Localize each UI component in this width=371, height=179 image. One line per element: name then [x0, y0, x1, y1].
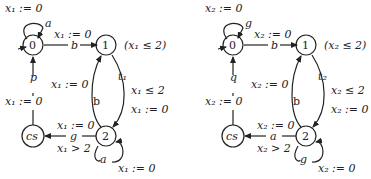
loop2-action: a [100, 153, 107, 166]
e12-guard: x₂ ≤ 2 [331, 84, 365, 97]
automaton-1-labels: 0 1 2 cs (x₁ ≤ 2) x₁ := 0 a x₁ := 0 b t₁… [5, 2, 169, 175]
state-cs-label: cs [226, 130, 238, 143]
state-0-label: 0 [229, 39, 236, 52]
e12-reset: x₁ := 0 [131, 103, 169, 116]
initial-arrow [18, 47, 26, 49]
loop2-reset: x₂ := 0 [318, 162, 356, 175]
e01-action: b [71, 39, 78, 52]
state-1-label: 1 [302, 39, 309, 52]
edge-1-2 [312, 55, 324, 127]
loop0-action: a [45, 17, 52, 30]
e12-action: t₂ [318, 70, 327, 83]
state-1-label: 1 [102, 39, 109, 52]
loop0-reset: x₂ := 0 [205, 2, 243, 15]
ecs0-action: q [230, 71, 237, 84]
e01-action: b [271, 39, 278, 52]
edge-1-2 [112, 55, 124, 127]
e2cs-guard: x₂ > 2 [257, 142, 291, 155]
e21-action: b [93, 95, 100, 108]
e12-reset: x₂ := 0 [331, 103, 369, 116]
e21-reset: x₂ := 0 [251, 78, 289, 91]
state-2-label: 2 [102, 130, 109, 143]
e21-action: b [293, 95, 300, 108]
e12-guard: x₁ ≤ 2 [131, 84, 165, 97]
invariant-1: (x₁ ≤ 2) [124, 39, 166, 52]
ecs0-reset: x₁ := 0 [5, 95, 43, 108]
edge-2-1 [92, 56, 101, 127]
e21-reset: x₁ := 0 [51, 78, 89, 91]
loop0-reset: x₁ := 0 [5, 2, 43, 15]
ecs0-reset: x₂ := 0 [205, 95, 243, 108]
loop2-action: g [300, 153, 307, 166]
loop0-action: g [245, 17, 252, 30]
automaton-2-labels: 0 1 2 cs (x₂ ≤ 2) x₂ := 0 g x₂ := 0 b t₂… [205, 2, 369, 175]
state-0-label: 0 [29, 39, 36, 52]
state-2-label: 2 [302, 130, 309, 143]
e12-action: t₁ [118, 70, 127, 83]
e2cs-guard: x₁ > 2 [57, 142, 91, 155]
initial-arrow [218, 47, 226, 49]
ecs0-action: p [30, 71, 37, 84]
invariant-1: (x₂ ≤ 2) [324, 39, 366, 52]
edge-2-1 [292, 56, 301, 127]
state-cs-label: cs [26, 130, 38, 143]
loop2-reset: x₁ := 0 [118, 162, 156, 175]
